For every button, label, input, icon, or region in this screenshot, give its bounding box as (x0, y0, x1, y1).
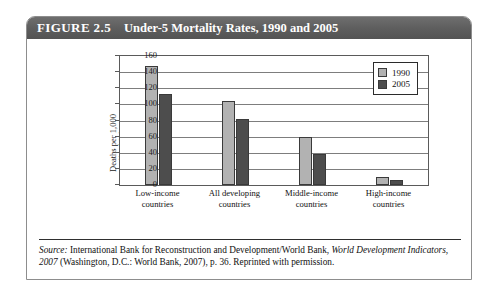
x-axis-label-line: Middle-income (273, 188, 350, 199)
x-axis-label-line: Low-income (119, 188, 196, 199)
x-axis-label-1: All developingcountries (196, 188, 273, 209)
legend-swatch-1990 (378, 68, 387, 77)
x-axis-label-line: countries (196, 199, 273, 210)
legend-swatch-2005 (378, 80, 387, 89)
y-axis-tick-mark (115, 71, 119, 72)
figure-number: FIGURE 2.5 (37, 20, 111, 36)
x-axis-labels: Low-incomecountriesAll developingcountri… (119, 188, 429, 222)
source-text-1: International Bank for Reconstruction an… (68, 245, 332, 255)
y-axis-tick-mark (115, 103, 119, 104)
chart-legend: 1990 2005 (373, 62, 418, 95)
bar-2005-1 (236, 119, 249, 185)
y-axis-tick-label: 40 (129, 147, 157, 157)
x-axis-label-line: All developing (196, 188, 273, 199)
bar-1990-1 (222, 101, 235, 185)
source-label: Source: (39, 245, 68, 255)
y-axis-tick-label: 60 (129, 131, 157, 141)
y-axis-tick-label: 140 (129, 66, 157, 76)
y-axis-tick-label: 120 (129, 82, 157, 92)
legend-item-1990: 1990 (378, 68, 410, 78)
plot-area: 1990 2005 (119, 55, 429, 186)
x-axis-label-2: Middle-incomecountries (273, 188, 350, 209)
source-text-2: (Washington, D.C.: World Bank, 2007), p.… (58, 257, 335, 267)
legend-item-2005: 2005 (378, 79, 410, 89)
y-axis-tick-mark (115, 184, 119, 185)
x-axis-label-line: High-income (350, 188, 427, 199)
page: FIGURE 2.5 Under-5 Mortality Rates, 1990… (0, 0, 501, 299)
y-axis-tick-label: 160 (129, 50, 157, 60)
x-axis-label-3: High-incomecountries (350, 188, 427, 209)
bar-2005-3 (390, 180, 403, 185)
y-axis-tick-mark (115, 152, 119, 153)
x-axis-label-0: Low-incomecountries (119, 188, 196, 209)
y-axis-tick-label: 20 (129, 163, 157, 173)
y-axis-tick-mark (115, 136, 119, 137)
figure-header: FIGURE 2.5 Under-5 Mortality Rates, 1990… (27, 17, 471, 39)
x-axis-label-line: countries (273, 199, 350, 210)
figure-box: FIGURE 2.5 Under-5 Mortality Rates, 1990… (26, 16, 472, 280)
source-divider (39, 239, 461, 240)
bar-1990-2 (299, 137, 312, 185)
x-axis-label-line: countries (119, 199, 196, 210)
legend-label-2005: 2005 (392, 79, 410, 89)
y-axis-tick-mark (115, 87, 119, 88)
y-axis-tick-label: 80 (129, 115, 157, 125)
figure-title: Under-5 Mortality Rates, 1990 and 2005 (124, 21, 338, 36)
bar-2005-0 (159, 94, 172, 185)
bar-2005-2 (313, 154, 326, 185)
legend-label-1990: 1990 (392, 68, 410, 78)
y-axis-tick-label: 100 (129, 98, 157, 108)
y-axis-tick-mark (115, 55, 119, 56)
y-axis-tick-mark (115, 120, 119, 121)
source-note: Source: International Bank for Reconstru… (39, 244, 463, 269)
x-axis-label-line: countries (350, 199, 427, 210)
y-axis-tick-mark (115, 168, 119, 169)
bar-1990-3 (376, 177, 389, 185)
chart-area: Deaths per 1,000 live births 1990 2005 (27, 39, 471, 237)
